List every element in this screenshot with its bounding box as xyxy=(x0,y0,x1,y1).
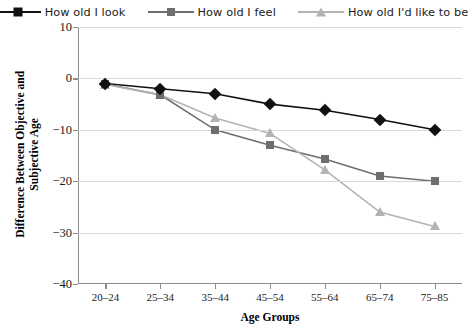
y-axis-tick xyxy=(73,78,78,79)
legend-swatch-how-old-i-feel xyxy=(148,6,194,18)
x-axis-tick-label: 45–54 xyxy=(256,291,284,303)
x-axis-tick-label: 35–44 xyxy=(201,291,229,303)
gridline xyxy=(78,27,462,28)
x-axis-tick-label: 20–24 xyxy=(92,291,120,303)
x-axis-tick-label: 65–74 xyxy=(366,291,394,303)
legend-item-how-old-id-like-to-be[interactable]: How old I'd like to be xyxy=(298,6,468,19)
y-axis-tick xyxy=(73,284,78,285)
x-axis-tick xyxy=(435,284,436,289)
x-axis-tick xyxy=(325,284,326,289)
legend-label-how-old-i-feel: How old I feel xyxy=(198,6,276,19)
data-point xyxy=(210,113,220,122)
data-point xyxy=(265,128,275,137)
y-axis-tick-label: −40 xyxy=(52,277,72,292)
x-axis-tick xyxy=(380,284,381,289)
data-point xyxy=(431,177,439,185)
x-axis-tick-label: 25–34 xyxy=(147,291,175,303)
data-point xyxy=(211,126,219,134)
legend-item-how-old-i-look[interactable]: How old I look xyxy=(0,6,126,19)
y-axis-tick xyxy=(73,181,78,182)
x-axis-tick xyxy=(160,284,161,289)
legend-swatch-how-old-id-like-to-be xyxy=(298,6,344,18)
legend-label-how-old-id-like-to-be: How old I'd like to be xyxy=(348,6,468,19)
x-axis-tick xyxy=(270,284,271,289)
y-axis-tick xyxy=(73,233,78,234)
legend-swatch-how-old-i-look xyxy=(0,6,41,18)
y-axis-tick-label: −10 xyxy=(52,122,72,137)
gridline xyxy=(78,181,462,182)
y-axis-tick-label: −20 xyxy=(52,174,72,189)
x-axis-title: Age Groups xyxy=(78,311,462,323)
legend-item-how-old-i-feel[interactable]: How old I feel xyxy=(148,6,276,19)
y-axis-title: Difference Between Objective and Subject… xyxy=(13,54,42,254)
gridline xyxy=(78,233,462,234)
data-point xyxy=(430,221,440,230)
plot-area: 100−10−20−30−4020–2425–3435–4445–5455–64… xyxy=(78,27,462,284)
gridline xyxy=(78,78,462,79)
data-point xyxy=(321,155,329,163)
legend-label-how-old-i-look: How old I look xyxy=(45,6,126,19)
y-axis-tick xyxy=(73,27,78,28)
x-axis-tick xyxy=(105,284,106,289)
data-point xyxy=(266,141,274,149)
y-axis-tick xyxy=(73,130,78,131)
data-point xyxy=(375,207,385,216)
y-axis-tick-label: 0 xyxy=(66,71,72,86)
x-axis-tick-label: 75–85 xyxy=(421,291,449,303)
data-point xyxy=(320,165,330,174)
y-axis-tick-label: −30 xyxy=(52,225,72,240)
x-axis-tick xyxy=(215,284,216,289)
x-axis-tick-label: 55–64 xyxy=(311,291,339,303)
series-lines xyxy=(78,27,462,284)
y-axis-tick-label: 10 xyxy=(60,20,73,35)
data-point xyxy=(376,172,384,180)
